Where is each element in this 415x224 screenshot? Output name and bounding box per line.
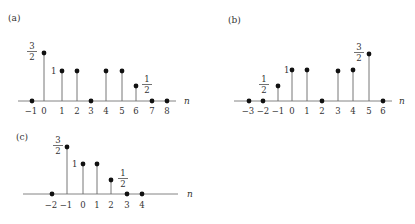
sample-dot-b-n-1 — [276, 84, 281, 89]
panel-label-b: (b) — [228, 15, 241, 25]
sample-dot-a-n7 — [150, 99, 155, 104]
svg-text:−1: −1 — [60, 200, 73, 210]
annotation-one-c: 1 — [72, 159, 77, 169]
tick-labels-b: −3 −2 −1 0 1 2 3 4 5 6 — [242, 106, 386, 116]
sample-dot-a-n8 — [165, 99, 170, 104]
annotation-one-half-b: 1 2 — [259, 74, 269, 95]
sample-dot-b-n6 — [381, 99, 386, 104]
axis-label-n-a: n — [184, 96, 190, 106]
svg-text:4: 4 — [350, 106, 355, 116]
svg-text:6: 6 — [133, 106, 138, 116]
svg-text:0: 0 — [41, 106, 46, 116]
sample-dot-b-n0 — [290, 68, 295, 73]
svg-text:2: 2 — [261, 85, 266, 95]
svg-text:−2: −2 — [257, 106, 270, 116]
sample-dot-c-n4 — [140, 192, 145, 197]
svg-text:8: 8 — [164, 106, 169, 116]
svg-text:2: 2 — [108, 200, 113, 210]
svg-text:2: 2 — [74, 106, 79, 116]
svg-text:2: 2 — [319, 106, 324, 116]
sample-dot-b-n1 — [305, 68, 310, 73]
svg-text:2: 2 — [144, 85, 149, 95]
annotation-three-halves-c: 3 2 — [53, 135, 63, 156]
annotation-three-halves-a: 3 2 — [27, 41, 37, 62]
panel-c: (c) n 3 2 1 1 2 −2 −1 0 — [16, 132, 193, 210]
annotation-three-halves-b: 3 2 — [354, 42, 364, 63]
sample-dot-c-n1 — [95, 162, 100, 167]
annotation-one-half-c: 1 2 — [118, 168, 128, 189]
svg-text:0: 0 — [80, 200, 85, 210]
svg-text:1: 1 — [144, 74, 149, 84]
sample-dot-c-n3 — [125, 192, 130, 197]
stem-plots-figure: (a) n 3 2 1 1 2 — [0, 0, 415, 224]
sample-dot-c-n2 — [109, 178, 114, 183]
panel-label-c: (c) — [16, 132, 28, 142]
sample-dot-a-n2 — [75, 69, 80, 74]
svg-text:−1: −1 — [25, 106, 38, 116]
svg-text:2: 2 — [29, 52, 34, 62]
tick-labels-c: −2 −1 0 1 2 3 4 — [45, 200, 145, 210]
svg-text:−3: −3 — [242, 106, 255, 116]
axis-label-n-b: n — [399, 96, 405, 106]
svg-text:1: 1 — [59, 106, 64, 116]
svg-text:3: 3 — [88, 106, 93, 116]
svg-text:−2: −2 — [45, 200, 58, 210]
svg-text:2: 2 — [120, 179, 125, 189]
svg-text:5: 5 — [119, 106, 124, 116]
sample-dot-a-n3 — [89, 99, 94, 104]
annotation-one-b: 1 — [284, 65, 289, 75]
annotation-one-a: 1 — [51, 66, 56, 76]
svg-text:3: 3 — [29, 41, 34, 51]
svg-text:6: 6 — [380, 106, 385, 116]
svg-text:2: 2 — [55, 146, 60, 156]
svg-text:3: 3 — [124, 200, 129, 210]
annotation-one-half-a: 1 2 — [142, 74, 152, 95]
svg-text:1: 1 — [120, 168, 125, 178]
svg-text:4: 4 — [139, 200, 144, 210]
sample-dot-b-n-2 — [261, 99, 266, 104]
panel-label-a: (a) — [8, 13, 20, 23]
svg-text:5: 5 — [366, 106, 371, 116]
sample-dot-b-n4 — [351, 68, 356, 73]
sample-dot-b-n2 — [320, 99, 325, 104]
svg-text:7: 7 — [149, 106, 154, 116]
svg-text:3: 3 — [55, 135, 60, 145]
sample-dot-b-n3 — [336, 69, 341, 74]
panel-b: (b) n 1 2 1 3 2 — [228, 15, 405, 116]
svg-text:1: 1 — [304, 106, 309, 116]
svg-text:−1: −1 — [272, 106, 285, 116]
svg-text:2: 2 — [356, 53, 361, 63]
svg-text:1: 1 — [261, 74, 266, 84]
svg-text:0: 0 — [289, 106, 294, 116]
sample-dot-b-n5 — [367, 52, 372, 57]
sample-dot-a-n4 — [104, 69, 109, 74]
sample-dot-c-n-1 — [65, 145, 70, 150]
sample-dot-a-n-1 — [30, 99, 35, 104]
sample-dot-a-n0 — [42, 51, 47, 56]
sample-dot-c-n0 — [81, 162, 86, 167]
tick-labels-a: −1 0 1 2 3 4 5 6 7 8 — [25, 106, 170, 116]
sample-dot-a-n6 — [134, 84, 139, 89]
sample-dot-c-n-2 — [50, 192, 55, 197]
sample-dot-b-n-3 — [247, 99, 252, 104]
svg-text:1: 1 — [94, 200, 99, 210]
panel-a: (a) n 3 2 1 1 2 — [8, 13, 190, 116]
svg-text:3: 3 — [335, 106, 340, 116]
sample-dot-a-n1 — [60, 69, 65, 74]
svg-text:3: 3 — [356, 42, 361, 52]
svg-text:4: 4 — [103, 106, 108, 116]
axis-label-n-c: n — [187, 189, 193, 199]
sample-dot-a-n5 — [120, 69, 125, 74]
